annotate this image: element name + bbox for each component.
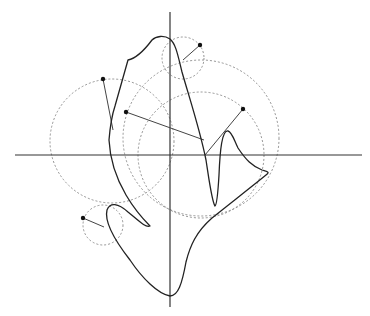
diagram-canvas [0, 0, 370, 316]
radius-top [183, 45, 200, 60]
bottom-left-small-circle [83, 205, 123, 245]
radius-bottom-left [83, 218, 104, 227]
epicycle-diagram [0, 0, 370, 316]
dot-top [198, 43, 202, 47]
top-small-circle [162, 37, 204, 79]
axes-layer [15, 12, 362, 307]
left-circle [50, 79, 174, 203]
dot-b [124, 110, 128, 114]
traced-curve [107, 36, 269, 296]
dot-bottom-left [81, 216, 85, 220]
radius-c [205, 109, 243, 155]
circles-layer [50, 37, 279, 245]
radii-layer [83, 45, 243, 227]
dot-left [101, 77, 105, 81]
dot-c [241, 107, 245, 111]
dots-layer [81, 43, 245, 220]
radius-b [126, 112, 204, 140]
